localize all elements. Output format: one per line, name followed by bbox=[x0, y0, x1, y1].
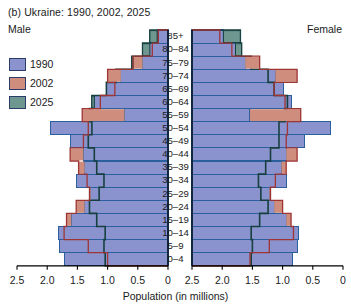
xtick-female-2: 1.0 bbox=[270, 274, 296, 286]
xtick-male-4: 0.5 bbox=[125, 274, 151, 286]
xtick-female-5: 2.5 bbox=[179, 274, 205, 286]
xtick-female-3: 1.5 bbox=[239, 274, 265, 286]
population-pyramid-chart: (b) Ukraine: 1990, 2002, 2025 Male Femal… bbox=[0, 0, 351, 308]
age-label-7579: 75–79 bbox=[153, 57, 199, 68]
x-axis-title: Population (in millions) bbox=[0, 290, 351, 302]
age-label-2024: 20–24 bbox=[153, 201, 199, 212]
age-label-85: 85+ bbox=[153, 30, 199, 41]
age-label-4044: 40–44 bbox=[153, 148, 199, 159]
age-label-6569: 65–69 bbox=[153, 83, 199, 94]
age-label-3034: 30–34 bbox=[153, 174, 199, 185]
age-label-3539: 35–39 bbox=[153, 161, 199, 172]
xtick-male-0: 2.5 bbox=[4, 274, 30, 286]
age-label-4549: 45–49 bbox=[153, 135, 199, 146]
age-label-5054: 50–54 bbox=[153, 122, 199, 133]
age-label-04: 0–4 bbox=[153, 253, 199, 264]
age-label-7074: 70–74 bbox=[153, 70, 199, 81]
age-label-5559: 55–59 bbox=[153, 109, 199, 120]
xtick-female-1: 0.5 bbox=[300, 274, 326, 286]
xtick-female-4: 2.0 bbox=[209, 274, 235, 286]
xtick-male-2: 1.5 bbox=[64, 274, 90, 286]
xtick-female-0: 0 bbox=[330, 274, 351, 286]
age-label-2529: 25–29 bbox=[153, 188, 199, 199]
age-label-8084: 80–84 bbox=[153, 43, 199, 54]
age-label-1014: 10–14 bbox=[153, 227, 199, 238]
age-label-59: 5–9 bbox=[153, 240, 199, 251]
xtick-male-5: 0 bbox=[155, 274, 181, 286]
age-label-1519: 15–19 bbox=[153, 214, 199, 225]
age-label-6064: 60–64 bbox=[153, 96, 199, 107]
xtick-male-3: 1.0 bbox=[95, 274, 121, 286]
xtick-male-1: 2.0 bbox=[34, 274, 60, 286]
